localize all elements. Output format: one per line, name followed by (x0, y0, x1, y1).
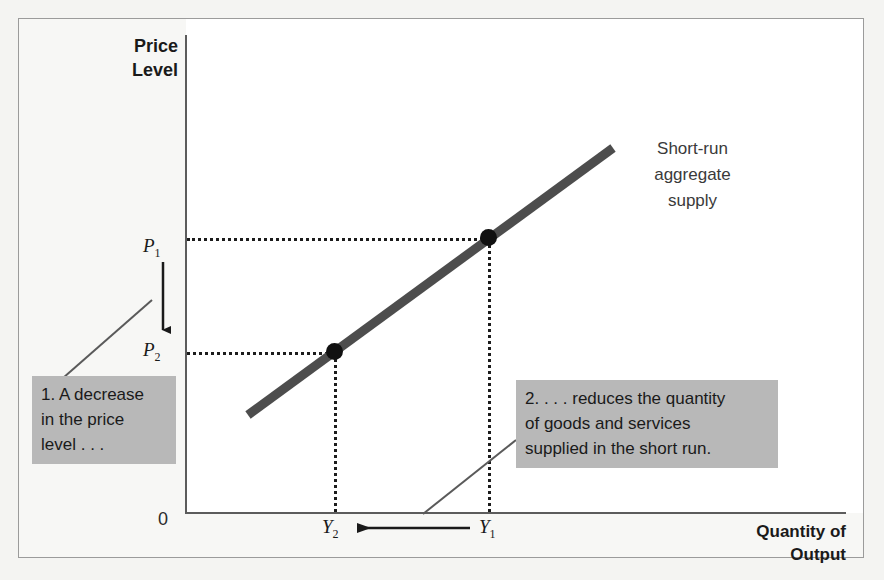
price-tick-p1-text: P (143, 235, 155, 256)
sras-curve (0, 0, 884, 580)
equilibrium-point-1 (480, 229, 497, 246)
callout-step-2-line-3: supplied in the short run. (525, 436, 769, 461)
curve-label: Short-run aggregate supply (620, 136, 765, 214)
curve-label-line-3: supply (620, 188, 765, 214)
callout-step-2-line-2: of goods and services (525, 411, 769, 436)
price-tick-p2-sub: 2 (155, 350, 161, 364)
quantity-tick-label-y1: Y1 (479, 516, 496, 542)
callout-step-1-line-3: level . . . (41, 432, 167, 457)
callout-step-1-line-1: 1. A decrease (41, 382, 167, 407)
quantity-tick-y1-sub: 1 (490, 527, 496, 541)
quantity-tick-y2-sub: 2 (333, 527, 339, 541)
curve-label-line-1: Short-run (620, 136, 765, 162)
callout-step-2: 2. . . . reduces the quantity of goods a… (516, 380, 778, 468)
price-tick-label-p1: P1 (143, 235, 161, 261)
quantity-tick-label-y2: Y2 (322, 516, 339, 542)
callout-step-2-line-1: 2. . . . reduces the quantity (525, 386, 769, 411)
quantity-tick-y2-text: Y (322, 516, 333, 537)
price-tick-label-p2: P2 (143, 339, 161, 365)
callout-step-1: 1. A decrease in the price level . . . (32, 376, 176, 464)
callout-step-1-line-2: in the price (41, 407, 167, 432)
price-tick-p1-sub: 1 (155, 246, 161, 260)
price-tick-p2-text: P (143, 339, 155, 360)
equilibrium-point-2 (326, 343, 343, 360)
figure-container: Price Level Quantity of Output 0 P1 P2 Y… (0, 0, 884, 580)
quantity-tick-y1-text: Y (479, 516, 490, 537)
curve-label-line-2: aggregate (620, 162, 765, 188)
